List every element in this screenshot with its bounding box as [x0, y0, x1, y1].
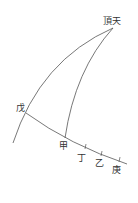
tick-yi: [101, 151, 102, 156]
label-wu: 戊: [16, 104, 25, 113]
label-yi: 乙: [95, 159, 104, 168]
outer-great-circle-arc: [13, 28, 113, 143]
label-zenith: 頂天: [103, 17, 121, 26]
label-geng: 庚: [112, 166, 121, 175]
label-jia: 甲: [59, 142, 68, 151]
label-ding: 丁: [77, 154, 86, 163]
inner-arc-zenith-to-jia: [65, 28, 113, 138]
